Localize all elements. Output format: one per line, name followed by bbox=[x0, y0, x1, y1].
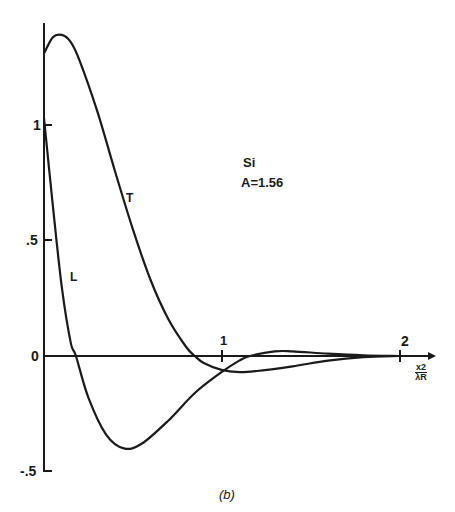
curve-L bbox=[44, 118, 399, 449]
y-tick-label-05: .5 bbox=[26, 233, 38, 247]
plot-canvas bbox=[0, 0, 455, 512]
curve-label-L: L bbox=[70, 271, 77, 283]
x-tick-label-2: 2 bbox=[401, 334, 409, 348]
y-tick-label-m05: -.5 bbox=[20, 464, 36, 478]
x-axis-label-denominator: λR bbox=[415, 372, 427, 382]
curve-label-T: T bbox=[126, 192, 133, 204]
x-tick-label-1: 1 bbox=[220, 334, 227, 347]
x-axis-label: x2 λR bbox=[415, 363, 427, 382]
y-tick-label-0: 0 bbox=[31, 349, 39, 363]
curve-T bbox=[44, 34, 399, 372]
annotation-param: A=1.56 bbox=[241, 176, 283, 189]
y-tick-label-1: 1 bbox=[33, 118, 41, 132]
annotation-material: Si bbox=[243, 156, 255, 169]
figure-caption: (b) bbox=[219, 488, 235, 501]
x-axis-arrow-icon bbox=[428, 352, 436, 360]
